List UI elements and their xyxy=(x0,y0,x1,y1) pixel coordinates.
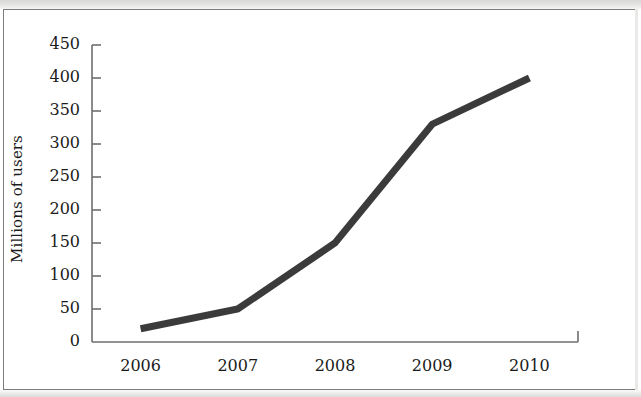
chart-plot-area: Millions of users 4504003503002502001501… xyxy=(0,0,641,397)
chart-data-series xyxy=(141,78,530,329)
data-series-line xyxy=(141,78,530,329)
chart-canvas xyxy=(0,0,641,397)
figure-page: Millions of users 4504003503002502001501… xyxy=(0,0,641,397)
